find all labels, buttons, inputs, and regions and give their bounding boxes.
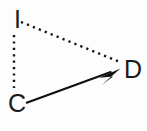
- arrowhead-icon: [99, 68, 120, 84]
- node-label-c: C: [8, 89, 26, 117]
- diagram-svg: I C D: [0, 0, 147, 131]
- diagram-canvas: I C D: [0, 0, 147, 131]
- node-label-d: D: [124, 55, 142, 83]
- node-label-i: I: [14, 5, 21, 33]
- edge-c-to-d: [26, 72, 111, 103]
- edge-i-to-d: [21, 22, 120, 62]
